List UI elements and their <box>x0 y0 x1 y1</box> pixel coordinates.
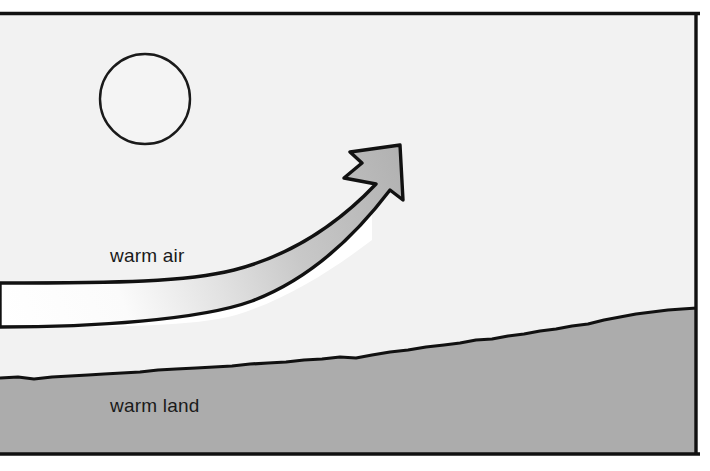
diagram-canvas: warm air warm land <box>0 0 710 471</box>
warm-land-label: warm land <box>109 395 199 416</box>
sun-icon <box>100 54 190 144</box>
warm-air-label: warm air <box>109 245 185 266</box>
convection-diagram: warm air warm land <box>0 0 710 471</box>
